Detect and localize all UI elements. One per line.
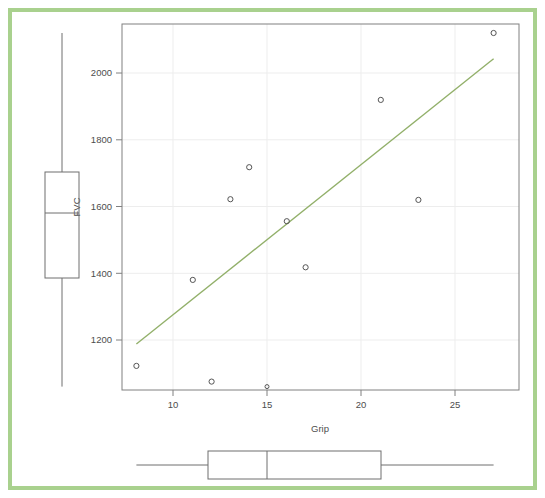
fvc-box-iqr (45, 172, 79, 278)
x-tick-label: 25 (450, 399, 461, 410)
grip-box-iqr (208, 451, 381, 479)
x-tick-label: 20 (356, 399, 367, 410)
y-axis-title: FVC (71, 197, 82, 216)
gridlines (122, 24, 519, 390)
data-point (491, 30, 496, 35)
plot-canvas: 1200 1400 1600 1800 2000 FVC 10 15 20 25… (0, 0, 545, 498)
y-tick-label: 2000 (91, 67, 112, 78)
figure-page: 1200 1400 1600 1800 2000 FVC 10 15 20 25… (0, 0, 545, 498)
grip-marginal-boxplot (136, 451, 493, 479)
data-points (134, 30, 496, 388)
y-tick-label: 1200 (91, 334, 112, 345)
y-tick-label: 1400 (91, 268, 112, 279)
data-point (416, 197, 421, 202)
data-point (303, 265, 308, 270)
y-tick-label: 1600 (91, 201, 112, 212)
data-point (134, 363, 139, 368)
x-tick-label: 10 (168, 399, 179, 410)
data-point (378, 97, 383, 102)
x-tick-label: 15 (262, 399, 273, 410)
data-point (228, 197, 233, 202)
scatterplot-figure: 1200 1400 1600 1800 2000 FVC 10 15 20 25… (0, 0, 545, 498)
data-point (209, 379, 214, 384)
x-axis: 10 15 20 25 Grip (168, 390, 461, 434)
data-point (190, 277, 195, 282)
x-axis-title: Grip (311, 423, 329, 434)
y-tick-label: 1800 (91, 134, 112, 145)
regression-line (136, 59, 493, 344)
data-point (247, 165, 252, 170)
